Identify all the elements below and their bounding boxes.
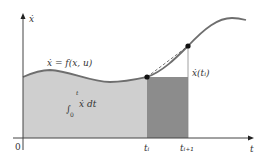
tick-label-ti1: tᵢ₊₁ — [180, 143, 194, 153]
step-rectangle — [147, 77, 188, 138]
point-ti1 — [185, 43, 190, 48]
integration-diagram: ẋ t 0 ẋ = f(x, u) ∫ t 0 ẋ dt ẋ(tᵢ) tᵢ tᵢ… — [0, 0, 268, 160]
point-value-label: ẋ(tᵢ) — [192, 68, 210, 78]
y-axis-label: ẋ — [29, 14, 34, 24]
curve-label: ẋ = f(x, u) — [47, 58, 93, 68]
origin-label: 0 — [15, 142, 21, 152]
secant-dashed-line — [147, 46, 188, 77]
x-axis-arrow-icon — [248, 136, 254, 141]
y-axis-arrow-icon — [21, 13, 26, 19]
point-ti — [144, 74, 149, 79]
tick-label-ti: tᵢ — [144, 143, 150, 153]
integral-lower-limit: 0 — [70, 111, 74, 118]
x-axis-label: t — [250, 144, 254, 154]
integral-integrand: ẋ dt — [79, 99, 97, 109]
